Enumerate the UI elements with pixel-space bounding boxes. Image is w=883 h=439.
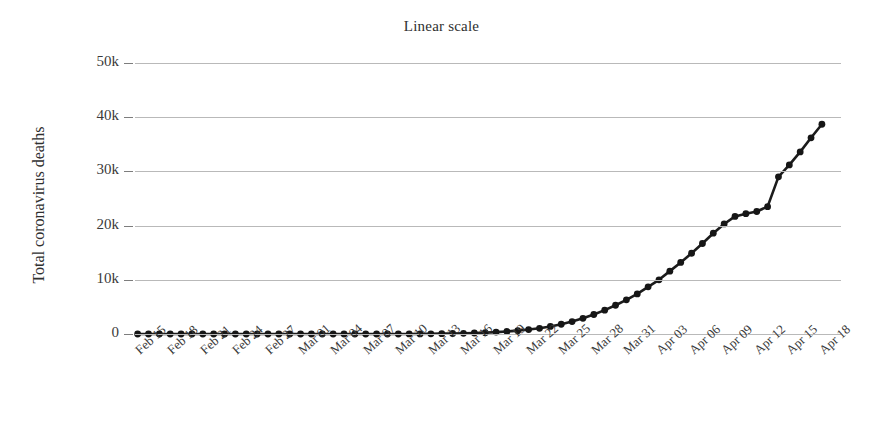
gridline (135, 280, 841, 281)
y-axis-tick-label: 0 (59, 324, 119, 341)
y-axis-tick-mark (124, 63, 133, 64)
data-point-marker (634, 290, 641, 297)
y-axis-tick-label: 20k (59, 216, 119, 233)
y-axis-tick-label: 30k (59, 161, 119, 178)
data-point-marker (797, 148, 804, 155)
gridline (135, 117, 841, 118)
data-point-marker (688, 250, 695, 257)
data-point-marker (601, 307, 608, 314)
data-point-marker (666, 268, 673, 275)
data-point-marker (742, 210, 749, 217)
y-axis-title: Total coronavirus deaths (30, 60, 48, 350)
y-axis-tick-label: 40k (59, 107, 119, 124)
data-point-marker (569, 318, 576, 325)
y-axis-tick-mark (124, 334, 133, 335)
data-point-marker (808, 134, 815, 141)
chart-container: Linear scale Total coronavirus deaths 50… (0, 0, 883, 439)
y-axis-tick-mark (124, 226, 133, 227)
data-point-marker (753, 208, 760, 215)
data-point-marker (558, 321, 565, 328)
data-point-marker (710, 230, 717, 237)
data-point-marker (819, 121, 826, 128)
y-axis-tick-label: 50k (59, 53, 119, 70)
plot-area (135, 63, 841, 334)
y-axis-tick-mark (124, 280, 133, 281)
data-point-marker (623, 296, 630, 303)
gridline (135, 226, 841, 227)
data-point-marker (775, 173, 782, 180)
gridline (135, 171, 841, 172)
data-point-marker (590, 311, 597, 318)
data-point-marker (732, 213, 739, 220)
data-point-marker (645, 283, 652, 290)
data-point-marker (764, 203, 771, 210)
y-axis-tick-mark (124, 171, 133, 172)
y-axis-tick-label: 10k (59, 270, 119, 287)
gridline (135, 63, 841, 64)
data-point-marker (677, 259, 684, 266)
series-deaths-line (135, 63, 841, 334)
data-point-marker (612, 302, 619, 309)
y-axis-tick-mark (124, 117, 133, 118)
chart-title: Linear scale (0, 18, 883, 35)
data-point-marker (699, 240, 706, 247)
data-point-marker (786, 162, 793, 169)
